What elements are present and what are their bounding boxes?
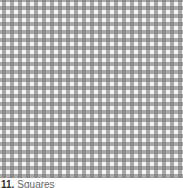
- thumbnail-caption: 11.Squares: [1, 179, 55, 188]
- item-number: 11.: [1, 179, 14, 188]
- item-label: Squares: [17, 179, 54, 188]
- pattern-thumbnail[interactable]: [0, 0, 183, 178]
